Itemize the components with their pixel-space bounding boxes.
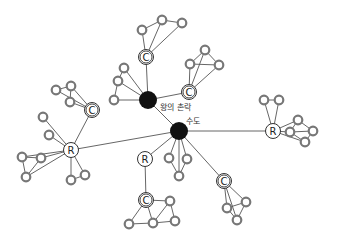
node-letter: C xyxy=(89,105,96,116)
settlement-node-icon xyxy=(110,96,119,105)
capital-label: 수도 xyxy=(186,117,200,126)
settlement-node-icon xyxy=(39,113,48,122)
royal-village-hub xyxy=(139,91,157,109)
settlement-node-icon xyxy=(242,198,251,207)
c-node-c-bottom-right: C xyxy=(217,174,232,189)
settlement-node-icon xyxy=(149,219,158,228)
settlement-node-icon xyxy=(215,61,224,70)
royal-village-label: 왕의 촌락 xyxy=(160,102,192,112)
settlement-node-icon xyxy=(125,220,134,229)
settlement-node-icon xyxy=(138,26,147,35)
settlement-node-icon xyxy=(301,138,310,147)
settlement-node-icon xyxy=(186,60,195,69)
c-node-c-left: C xyxy=(85,103,100,118)
r-node-r-left: R xyxy=(64,143,79,158)
settlement-node-icon xyxy=(233,216,242,225)
settlement-node-icon xyxy=(166,197,175,206)
settlement-node-icon xyxy=(66,98,75,107)
settlement-node-icon xyxy=(275,96,284,105)
node-letter: R xyxy=(270,126,277,137)
node-letter: C xyxy=(186,87,193,98)
c-node-c-royal-right: C xyxy=(182,85,197,100)
c-node-c-bottom: C xyxy=(139,193,154,208)
node-letter: C xyxy=(143,52,150,63)
settlement-node-icon xyxy=(260,96,269,105)
node-letter: C xyxy=(221,176,228,187)
settlement-node-icon xyxy=(37,154,46,163)
node-letter: R xyxy=(142,154,149,165)
settlement-node-icon xyxy=(223,204,232,213)
settlement-node-icon xyxy=(165,154,174,163)
c-node-c-top: C xyxy=(139,50,154,65)
settlement-node-icon xyxy=(158,16,167,25)
settlement-node-icon xyxy=(81,171,90,180)
settlement-node-icon xyxy=(309,127,318,136)
r-node-r-bottom: R xyxy=(138,152,153,167)
edge-capital-r-left xyxy=(71,131,179,150)
small-nodes-layer xyxy=(18,16,318,229)
settlement-node-icon xyxy=(286,128,295,137)
settlement-node-icon xyxy=(175,172,184,181)
settlement-node-icon xyxy=(114,77,123,86)
settlement-node-icon xyxy=(67,176,76,185)
settlement-node-icon xyxy=(183,155,192,164)
settlement-node-icon xyxy=(18,153,27,162)
edges-layer xyxy=(22,20,313,224)
settlement-node-icon xyxy=(294,116,303,125)
settlement-node-icon xyxy=(67,82,76,91)
settlement-node-icon xyxy=(178,19,187,28)
node-letter: C xyxy=(143,195,150,206)
settlement-node-icon xyxy=(22,173,31,182)
settlement-node-icon xyxy=(52,86,61,95)
central-place-network-diagram: CCCRRRCC 왕의 촌락 수도 xyxy=(0,0,341,246)
settlement-node-icon xyxy=(201,46,210,55)
node-letter: R xyxy=(68,145,75,156)
settlement-node-icon xyxy=(171,217,180,226)
settlement-node-icon xyxy=(45,131,54,140)
settlement-node-icon xyxy=(120,64,129,73)
r-node-r-right: R xyxy=(266,124,281,139)
